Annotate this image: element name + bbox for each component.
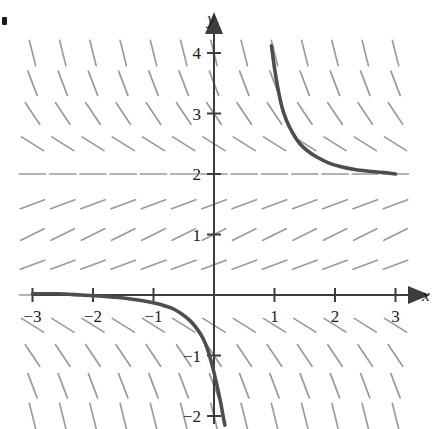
slope-segment <box>52 137 74 151</box>
slope-segment <box>324 137 346 151</box>
slope-segment <box>298 103 312 125</box>
x-tick-label: 2 <box>331 307 340 326</box>
slope-segment <box>353 260 377 269</box>
slope-segment <box>142 229 165 241</box>
slope-segment <box>354 229 377 241</box>
slope-segment <box>116 345 130 367</box>
slope-segment <box>51 229 74 241</box>
slope-segment <box>294 318 316 332</box>
slope-segment <box>150 403 156 428</box>
slope-segment <box>149 71 158 95</box>
slope-segment <box>112 318 134 332</box>
slope-segment <box>353 200 377 209</box>
slope-segment <box>330 374 339 398</box>
slope-segment <box>146 103 160 125</box>
slope-segment <box>383 260 407 269</box>
slope-segment <box>330 71 339 95</box>
slope-segment <box>267 345 281 367</box>
slope-segment <box>271 403 277 428</box>
slope-segment <box>362 403 368 428</box>
slope-segment <box>302 403 308 428</box>
x-axis-label: x <box>421 286 430 305</box>
slope-segment <box>323 260 347 269</box>
slope-segment <box>262 200 286 209</box>
slope-segment <box>179 71 188 95</box>
slope-segment <box>361 71 370 95</box>
slope-segment <box>150 40 156 65</box>
slope-segment <box>328 345 342 367</box>
slope-segment <box>111 260 135 269</box>
slope-segment <box>29 403 35 428</box>
slope-segment <box>233 318 255 332</box>
slope-segment <box>179 374 188 398</box>
slope-segment <box>293 260 317 269</box>
slope-segment <box>241 40 247 65</box>
slope-segment <box>29 40 35 65</box>
slope-segment <box>358 345 372 367</box>
slope-segment <box>323 200 347 209</box>
slope-segment <box>391 374 400 398</box>
slope-segment <box>20 260 44 269</box>
slope-segment <box>119 71 128 95</box>
slope-segment <box>232 200 256 209</box>
slope-segment <box>81 229 104 241</box>
slope-segment <box>262 260 286 269</box>
slope-segment <box>119 374 128 398</box>
slope-segment <box>384 229 407 241</box>
y-tick-label: 1 <box>193 226 202 245</box>
slope-segment <box>233 229 256 241</box>
slope-segment <box>392 40 398 65</box>
slope-segment <box>82 137 104 151</box>
slope-segment <box>58 374 67 398</box>
slope-segment <box>172 200 196 209</box>
slope-segment <box>392 403 398 428</box>
slope-segment <box>181 40 187 65</box>
y-tick-label: −2 <box>183 407 201 426</box>
slope-segment <box>361 374 370 398</box>
slope-segment <box>232 260 256 269</box>
slope-segment <box>51 200 75 209</box>
slope-segment <box>328 103 342 125</box>
slope-segment <box>25 103 39 125</box>
slope-segment <box>302 40 308 65</box>
slope-segment <box>60 40 66 65</box>
slope-segment <box>28 374 37 398</box>
slope-segment <box>120 403 126 428</box>
x-tick-label: −1 <box>144 307 162 326</box>
axes-group <box>33 32 410 424</box>
slope-segment <box>81 200 105 209</box>
slope-segment <box>21 137 43 151</box>
slope-segment <box>354 137 376 151</box>
slope-segment <box>81 260 105 269</box>
slope-segment <box>383 200 407 209</box>
x-tick-label: −2 <box>84 307 102 326</box>
slope-segment <box>56 345 70 367</box>
slope-segment <box>293 200 317 209</box>
slope-segment <box>21 229 44 241</box>
slope-segment <box>52 318 74 332</box>
slope-segment <box>116 103 130 125</box>
slope-segment <box>120 40 126 65</box>
slope-segment <box>88 71 97 95</box>
slope-segment <box>58 71 67 95</box>
slope-segment <box>241 403 247 428</box>
x-tick-label: 3 <box>391 307 400 326</box>
slope-segment <box>86 345 100 367</box>
slope-segment <box>300 374 309 398</box>
slope-segment <box>142 137 164 151</box>
slope-segment <box>300 71 309 95</box>
slope-segment <box>111 200 135 209</box>
slope-segment <box>90 40 96 65</box>
slope-segment <box>391 71 400 95</box>
x-tick-label: 1 <box>270 307 279 326</box>
y-tick-label: −1 <box>183 347 201 366</box>
slope-segment <box>86 103 100 125</box>
slope-segment <box>237 345 251 367</box>
slope-field-figure: −3−2−1123−2−11234 x y <box>0 0 448 429</box>
slope-segment <box>141 200 165 209</box>
slope-segment <box>237 103 251 125</box>
slope-segment <box>149 374 158 398</box>
slope-segment <box>362 40 368 65</box>
slope-segment <box>332 403 338 428</box>
slope-field-plot: −3−2−1123−2−11234 x y <box>0 0 448 429</box>
